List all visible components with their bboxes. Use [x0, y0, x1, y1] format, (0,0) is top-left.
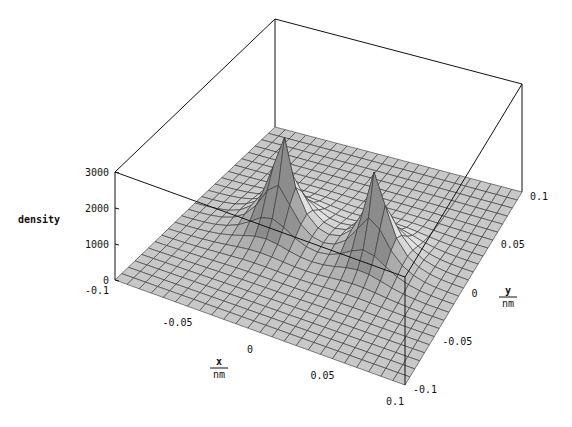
tick-label: -0.05: [162, 317, 192, 328]
tick-label: 0.05: [310, 370, 334, 381]
x-label-denominator: nm: [213, 369, 225, 380]
tick-label: 2000: [85, 203, 109, 214]
tick-label: 0.05: [501, 239, 525, 250]
surface-plot: 0100020003000-0.1-0.0500.050.1-0.1-0.050…: [0, 0, 572, 427]
tick-label: 0.1: [386, 396, 404, 407]
y-label-denominator: nm: [502, 298, 514, 309]
z-axis-label: density: [18, 214, 60, 225]
tick-label: 0: [472, 288, 478, 299]
tick-label: -0.1: [413, 384, 437, 395]
y-axis-label: y nm: [499, 285, 517, 309]
tick-label: 0: [247, 344, 253, 355]
x-label-numerator: x: [216, 356, 222, 367]
tick-label: 3000: [85, 167, 109, 178]
tick-label: 1000: [85, 239, 109, 250]
tick-label: 0.1: [530, 191, 548, 202]
tick-label: -0.05: [442, 336, 472, 347]
x-axis-label: x nm: [210, 356, 228, 380]
y-label-numerator: y: [505, 285, 511, 296]
tick-label: -0.1: [85, 285, 109, 296]
